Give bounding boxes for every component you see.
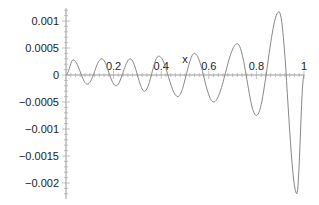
y-tick-label: −0.002 xyxy=(25,177,59,189)
y-tick-label: −0.001 xyxy=(25,123,59,135)
x-tick-label: 1 xyxy=(301,60,307,72)
x-axis-label: x xyxy=(182,53,188,65)
y-tick-label: 0 xyxy=(53,69,59,81)
line-chart: 0.20.40.60.810.0010.00050−0.0005−0.001−0… xyxy=(0,0,319,205)
y-tick-label: −0.0005 xyxy=(19,96,59,108)
data-curve xyxy=(66,12,304,194)
axes xyxy=(62,8,304,199)
x-tick-label: 0.6 xyxy=(201,60,216,72)
x-tick-label: 0.8 xyxy=(249,60,264,72)
y-tick-label: −0.0015 xyxy=(19,150,59,162)
y-tick-label: 0.0005 xyxy=(25,42,59,54)
y-tick-label: 0.001 xyxy=(31,15,59,27)
